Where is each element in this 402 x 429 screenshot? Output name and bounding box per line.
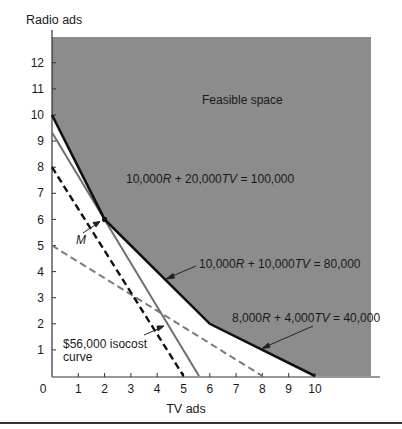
chart: 1 2 3 4 5 6 7 8 9 10 11 12 0 1 2 3 4 5 6… xyxy=(0,0,402,429)
svg-text:4: 4 xyxy=(37,265,44,279)
svg-text:6: 6 xyxy=(206,382,213,396)
svg-text:4: 4 xyxy=(154,382,161,396)
svg-text:10: 10 xyxy=(31,108,45,122)
constraint-1-label: 10,000R + 20,000TV = 100,000 xyxy=(126,172,294,186)
bottom-rule xyxy=(0,422,402,424)
svg-text:5: 5 xyxy=(180,382,187,396)
x-axis-title: TV ads xyxy=(166,402,206,416)
svg-text:9: 9 xyxy=(285,382,292,396)
svg-text:6: 6 xyxy=(37,213,44,227)
constraint-3-label: 8,000R + 4,000TV = 40,000 xyxy=(232,311,380,325)
isocost-label-line1: $56,000 isocost xyxy=(63,337,148,351)
svg-text:0: 0 xyxy=(40,382,47,396)
svg-text:1: 1 xyxy=(37,343,44,357)
x-tick-labels: 0 1 2 3 4 5 6 7 8 9 10 xyxy=(40,382,322,396)
svg-text:11: 11 xyxy=(32,82,45,96)
constraint-2-label: 10,000R + 10,000TV = 80,000 xyxy=(199,257,361,271)
feasible-space-label: Feasible space xyxy=(202,93,283,107)
svg-text:10: 10 xyxy=(308,382,322,396)
y-axis-title: Radio ads xyxy=(26,13,82,27)
svg-text:3: 3 xyxy=(37,291,44,305)
svg-text:3: 3 xyxy=(128,382,135,396)
svg-text:5: 5 xyxy=(37,239,44,253)
svg-text:2: 2 xyxy=(101,382,108,396)
isocost-label-line2: curve xyxy=(63,350,93,364)
svg-text:8: 8 xyxy=(37,160,44,174)
svg-text:8: 8 xyxy=(259,382,266,396)
point-m-label: M xyxy=(76,233,86,247)
svg-text:7: 7 xyxy=(37,186,44,200)
svg-text:12: 12 xyxy=(31,56,45,70)
svg-text:7: 7 xyxy=(233,382,240,396)
svg-text:1: 1 xyxy=(75,382,82,396)
svg-text:2: 2 xyxy=(37,317,44,331)
svg-text:9: 9 xyxy=(37,134,44,148)
point-m xyxy=(102,217,107,222)
y-tick-labels: 1 2 3 4 5 6 7 8 9 10 11 12 xyxy=(31,56,45,357)
